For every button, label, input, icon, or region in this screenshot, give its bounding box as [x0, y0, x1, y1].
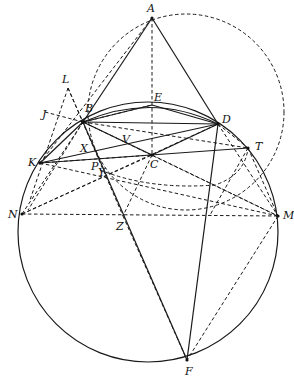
- segment-ak: [40, 18, 152, 163]
- label-b: B: [85, 103, 93, 114]
- label-c: C: [150, 159, 158, 170]
- point-c: [150, 153, 154, 157]
- label-v: V: [122, 134, 130, 145]
- label-m: M: [283, 210, 294, 221]
- label-e: E: [154, 92, 162, 103]
- label-n: N: [8, 209, 18, 220]
- segment-nm: [22, 214, 278, 216]
- segment-cz: [123, 155, 152, 216]
- point-k: [38, 161, 42, 165]
- label-p: P: [91, 161, 98, 172]
- point-f: [185, 358, 188, 361]
- label-k: K: [28, 157, 36, 168]
- point-b: [81, 120, 85, 124]
- segment-l-down: [30, 88, 68, 200]
- segment-jb: [45, 112, 83, 122]
- point-a: [150, 16, 153, 19]
- segment-ab: [83, 18, 152, 122]
- point-t: [246, 146, 249, 149]
- label-d: D: [222, 114, 231, 125]
- label-x: X: [80, 143, 88, 154]
- point-d: [216, 122, 220, 126]
- point-n: [20, 212, 23, 215]
- segment-bd: [83, 122, 218, 124]
- diagram-svg: [0, 0, 294, 388]
- segment-zf: [123, 216, 187, 360]
- segment-dm: [218, 124, 278, 216]
- segment-mf: [187, 216, 278, 360]
- segment-km: [40, 163, 278, 216]
- label-j: J: [42, 109, 46, 120]
- label-f: F: [185, 366, 193, 377]
- geometry-diagram: A B E D T C K N M Z F X Y P V L J: [0, 0, 294, 388]
- label-y: Y: [98, 167, 105, 178]
- label-a: A: [147, 3, 155, 14]
- segment-kb: [40, 122, 83, 163]
- segment-df: [187, 124, 218, 360]
- label-z: Z: [116, 221, 124, 232]
- segment-bf: [83, 122, 187, 360]
- label-l: L: [62, 74, 69, 85]
- segment-tm: [248, 148, 278, 216]
- point-m: [276, 214, 279, 217]
- label-t: T: [255, 141, 262, 152]
